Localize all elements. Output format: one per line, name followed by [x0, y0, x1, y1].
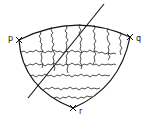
- point-p: p: [8, 34, 22, 43]
- tiled-region-diagram: p q r: [0, 0, 148, 123]
- label-r: r: [79, 107, 83, 116]
- label-p: p: [8, 34, 13, 43]
- region-outline: [19, 25, 130, 108]
- crossing-line: [28, 4, 104, 98]
- label-q: q: [136, 34, 141, 43]
